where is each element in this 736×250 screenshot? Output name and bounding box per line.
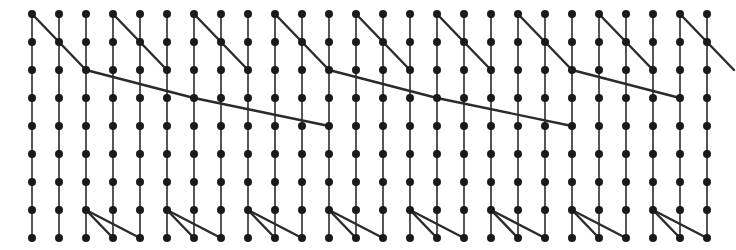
lattice-node [28,150,36,158]
lattice-node [217,94,225,102]
lattice-node [109,66,117,74]
lattice-node [433,38,441,46]
lattice-node [460,66,468,74]
lattice-node [217,206,225,214]
lattice-node [55,150,63,158]
lattice-node [568,94,576,102]
lattice-node [271,178,279,186]
lattice-node [271,234,279,242]
lattice-node [217,66,225,74]
lattice-node [271,122,279,130]
lattice-node [82,122,90,130]
lattice-node [163,122,171,130]
lattice-node [163,94,171,102]
lattice-node [163,38,171,46]
lattice-node [109,10,117,18]
lattice-node [433,234,441,242]
lattice-node [487,38,495,46]
lattice-node [136,10,144,18]
lattice-node [676,122,684,130]
lattice-node [676,10,684,18]
lattice-node [406,150,414,158]
lattice-node [703,178,711,186]
lattice-node [568,178,576,186]
lattice-node [703,10,711,18]
lattice-node [28,122,36,130]
lattice-node [433,10,441,18]
lattice-node [379,66,387,74]
lattice-node [541,150,549,158]
lattice-node [622,10,630,18]
lattice-node [676,150,684,158]
lattice-node [55,10,63,18]
lattice-node [163,178,171,186]
lattice-node [190,38,198,46]
lattice-node [217,122,225,130]
lattice-node [568,38,576,46]
lattice-node [676,38,684,46]
lattice-node [568,206,576,214]
lattice-node [487,234,495,242]
lattice-node [460,94,468,102]
lattice-node [271,206,279,214]
lattice-node [190,94,198,102]
lattice-node [487,66,495,74]
lattice-node [298,178,306,186]
lattice-node [190,10,198,18]
lattice-node [703,38,711,46]
lattice-node [163,206,171,214]
lattice-node [109,178,117,186]
lattice-node [622,94,630,102]
lattice-node [55,94,63,102]
lattice-node [433,66,441,74]
lattice-node [325,206,333,214]
lattice-node [703,234,711,242]
lattice-node [271,66,279,74]
lattice-node [568,150,576,158]
lattice-node [352,206,360,214]
lattice-node [406,178,414,186]
lattice-node [82,206,90,214]
lattice-node [541,206,549,214]
lattice-node [163,234,171,242]
lattice-node [595,234,603,242]
lattice-node [352,234,360,242]
lattice-node [622,122,630,130]
lattice-node [514,178,522,186]
lattice-node [136,122,144,130]
lattice-node [514,122,522,130]
lattice-node [433,150,441,158]
lattice-node [136,150,144,158]
lattice-node [514,38,522,46]
lattice-node [649,150,657,158]
lattice-node [379,178,387,186]
lattice-node [406,66,414,74]
lattice-node [541,178,549,186]
lattice-node [703,94,711,102]
lattice-node [379,38,387,46]
lattice-node [568,122,576,130]
lattice-node [703,206,711,214]
lattice-node [622,66,630,74]
lattice-node [325,10,333,18]
lattice-node [460,150,468,158]
lattice-node [487,178,495,186]
lattice-node [703,122,711,130]
lattice-node [325,38,333,46]
lattice-node [82,38,90,46]
lattice-node [298,150,306,158]
lattice-svg [0,0,736,250]
lattice-node [217,234,225,242]
lattice-node [514,234,522,242]
lattice-node [82,94,90,102]
lattice-node [190,122,198,130]
lattice-node [190,66,198,74]
lattice-node [649,38,657,46]
lattice-node [325,94,333,102]
lattice-node [595,122,603,130]
lattice-node [298,38,306,46]
lattice-node [28,94,36,102]
lattice-node [676,178,684,186]
lattice-node [649,178,657,186]
lattice-node [649,66,657,74]
